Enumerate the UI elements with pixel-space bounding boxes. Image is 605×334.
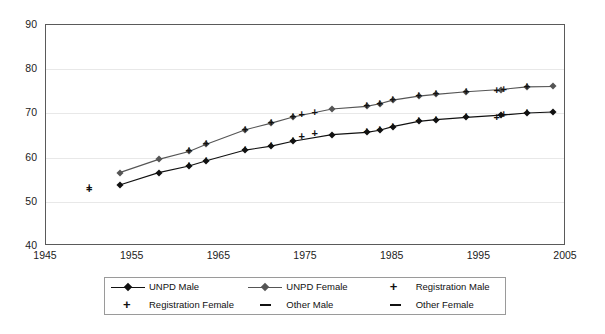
data-point-plus: + — [389, 94, 395, 105]
data-point-plus: + — [311, 108, 317, 119]
data-point-plus: + — [242, 144, 248, 155]
legend-item-label: UNPD Female — [286, 282, 347, 292]
legend-diamond-icon — [124, 283, 132, 291]
data-point-plus: + — [500, 109, 506, 120]
legend-key-line-diamond-black-icon — [111, 282, 145, 292]
x-axis-tick-label: 1975 — [285, 250, 325, 261]
data-point-plus: + — [363, 101, 369, 112]
data-point-plus: + — [415, 116, 421, 127]
legend-dash-icon — [260, 304, 271, 306]
legend-item-label: Registration Female — [149, 300, 234, 310]
data-point-diamond — [116, 181, 123, 188]
y-axis-tick-label: 80 — [11, 63, 37, 73]
data-point-plus: + — [290, 111, 296, 122]
data-point-plus: + — [433, 114, 439, 125]
legend-plus-icon: + — [390, 280, 398, 293]
data-point-plus: + — [186, 160, 192, 171]
series-markers: ++++++++++++++++++++++++++++++++++ — [46, 25, 564, 244]
data-point-plus: + — [298, 132, 304, 143]
y-axis-tick-label: 50 — [11, 196, 37, 206]
data-point-plus: + — [290, 136, 296, 147]
legend-key-dash-icon — [378, 300, 412, 310]
data-point-plus: + — [500, 84, 506, 95]
data-point-diamond — [549, 83, 556, 90]
data-point-plus: + — [376, 124, 382, 135]
data-point-diamond — [155, 156, 162, 163]
legend-item-registration-female[interactable]: +Registration Female — [105, 300, 238, 310]
data-point-plus: + — [242, 124, 248, 135]
plot-area: ++++++++++++++++++++++++++++++++++ — [45, 24, 565, 245]
legend-key-line-diamond-gray-icon — [248, 282, 282, 292]
x-axis-tick-label: 1965 — [198, 250, 238, 261]
data-point-plus: + — [203, 139, 209, 150]
x-axis-tick-label: 2005 — [545, 250, 585, 261]
data-point-plus: + — [376, 98, 382, 109]
legend-item-label: Other Male — [286, 300, 333, 310]
data-point-plus: + — [186, 146, 192, 157]
data-point-plus: + — [389, 121, 395, 132]
data-point-plus: + — [363, 127, 369, 138]
chart-legend: UNPD MaleUNPD Female+Registration Male+R… — [104, 277, 506, 315]
legend-item-unpd-female[interactable]: UNPD Female — [238, 282, 371, 292]
data-point-plus: + — [268, 140, 274, 151]
y-axis-tick-label: 60 — [11, 152, 37, 162]
chart-root: 405060708090 194519551965197519851995200… — [0, 0, 605, 334]
legend-item-label: UNPD Male — [149, 282, 199, 292]
data-point-plus: + — [268, 117, 274, 128]
data-point-plus: + — [311, 128, 317, 139]
x-axis-tick-label: 1995 — [458, 250, 498, 261]
data-point-plus: + — [86, 182, 92, 193]
legend-item-other-female[interactable]: Other Female — [372, 300, 505, 310]
y-axis-tick-label: 70 — [11, 107, 37, 117]
legend-item-other-male[interactable]: Other Male — [238, 300, 371, 310]
legend-diamond-icon — [261, 283, 269, 291]
legend-plus-icon: + — [123, 298, 131, 311]
legend-key-plus-icon: + — [111, 300, 145, 310]
legend-key-plus-icon: + — [378, 282, 412, 292]
data-point-diamond — [549, 109, 556, 116]
x-axis-tick-label: 1945 — [25, 250, 65, 261]
data-point-plus: + — [203, 155, 209, 166]
legend-item-label: Registration Male — [416, 282, 490, 292]
data-point-plus: + — [463, 112, 469, 123]
legend-item-registration-male[interactable]: +Registration Male — [372, 282, 505, 292]
legend-item-unpd-male[interactable]: UNPD Male — [105, 282, 238, 292]
data-point-plus: + — [433, 89, 439, 100]
data-point-plus: + — [493, 86, 499, 97]
x-axis-tick-label: 1955 — [112, 250, 152, 261]
data-point-plus: + — [493, 112, 499, 123]
data-point-plus: + — [524, 107, 530, 118]
data-point-diamond — [116, 169, 123, 176]
y-axis-tick-label: 90 — [11, 19, 37, 29]
legend-dash-icon — [390, 304, 401, 306]
legend-key-dash-icon — [248, 300, 282, 310]
data-point-plus: + — [463, 86, 469, 97]
data-point-diamond — [328, 105, 335, 112]
data-point-diamond — [328, 131, 335, 138]
data-point-plus: + — [298, 109, 304, 120]
legend-item-label: Other Female — [416, 300, 474, 310]
data-point-diamond — [155, 169, 162, 176]
x-axis-tick-label: 1985 — [372, 250, 412, 261]
data-point-plus: + — [524, 81, 530, 92]
data-point-plus: + — [415, 90, 421, 101]
